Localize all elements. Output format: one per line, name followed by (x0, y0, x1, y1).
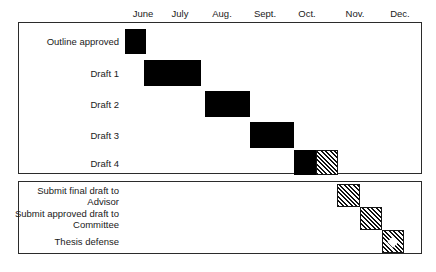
axis-tick-july: July (172, 8, 189, 20)
gantt-bar-draft-4-completed (294, 150, 316, 175)
tasks-section: Outline approved Draft 1 Draft 2 Draft 3… (18, 22, 422, 174)
gantt-bar-draft-2 (205, 91, 250, 117)
row-label-outline-approved: Outline approved (0, 36, 119, 47)
axis-tick-june: June (133, 8, 154, 20)
row-label-submit-approved-draft: Submit approved draft to Committee (0, 208, 119, 230)
gantt-bar-thesis-defense (382, 230, 404, 253)
gantt-bar-draft-3 (250, 122, 294, 148)
axis-tick-sept: Sept. (254, 8, 276, 20)
row-label-draft-2: Draft 2 (0, 99, 119, 110)
gantt-bar-outline-approved (125, 29, 146, 54)
gantt-bar-draft-4-planned (316, 150, 338, 175)
month-axis: June July Aug. Sept. Oct. Nov. Dec. (0, 8, 436, 22)
gantt-row-draft-4: Draft 4 (19, 149, 423, 177)
gantt-row-outline-approved: Outline approved (19, 27, 423, 55)
axis-tick-dec: Dec. (390, 8, 410, 20)
axis-tick-aug: Aug. (212, 8, 232, 20)
gantt-row-submit-final-draft: Submit final draft to Advisor (19, 184, 423, 207)
gantt-row-draft-3: Draft 3 (19, 120, 423, 150)
milestones-section: Submit final draft to Advisor Submit app… (18, 181, 422, 254)
axis-tick-oct: Oct. (298, 8, 315, 20)
gantt-bar-draft-1 (144, 60, 201, 86)
gantt-chart: June July Aug. Sept. Oct. Nov. Dec. Outl… (0, 0, 436, 272)
axis-tick-nov: Nov. (346, 8, 365, 20)
gantt-bar-submit-final-draft (337, 184, 360, 207)
row-label-draft-3: Draft 3 (0, 130, 119, 141)
gantt-bar-submit-approved-draft (360, 207, 382, 230)
row-label-draft-4: Draft 4 (0, 158, 119, 169)
row-label-draft-1: Draft 1 (0, 68, 119, 79)
gantt-bar-draft-4 (294, 150, 338, 175)
gantt-row-submit-approved-draft: Submit approved draft to Committee (19, 207, 423, 230)
row-label-thesis-defense: Thesis defense (0, 236, 119, 247)
milestone-diamond-marker (387, 236, 398, 247)
gantt-row-draft-1: Draft 1 (19, 58, 423, 88)
row-label-submit-final-draft: Submit final draft to Advisor (0, 185, 119, 207)
gantt-row-draft-2: Draft 2 (19, 89, 423, 119)
gantt-row-thesis-defense: Thesis defense (19, 230, 423, 253)
